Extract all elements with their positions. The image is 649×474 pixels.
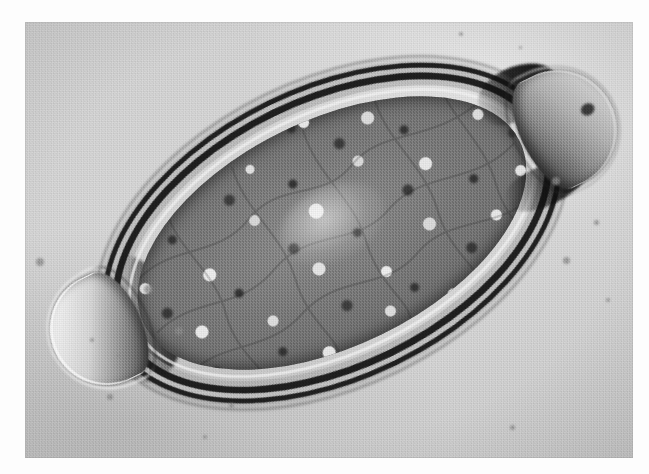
photomicrograph-print xyxy=(25,22,633,458)
halftone-dot-layer xyxy=(25,22,633,458)
screenshot-root: Black and white photomicrograph of a bar… xyxy=(0,0,649,474)
